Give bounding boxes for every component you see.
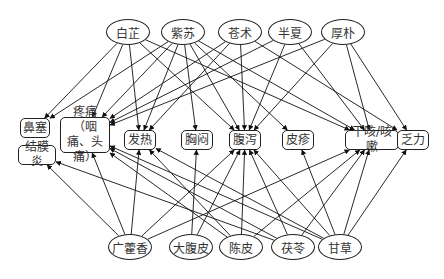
herb-node-zisu: 紫苏 [161, 19, 205, 45]
herb-symptom-diagram: 白芷紫苏苍术半夏厚朴广藿香大腹皮陈皮茯苓甘草鼻塞结膜炎疼痛（咽痛、头痛）发热胸闷… [0, 0, 444, 279]
edge-arrow [110, 153, 227, 237]
edge-arrow [110, 40, 273, 122]
edge-arrow [346, 45, 369, 130]
edge-arrow [92, 153, 125, 234]
herb-node-fuling: 茯苓 [271, 234, 315, 260]
symptom-node-jiemoyan: 结膜炎 [18, 145, 56, 165]
edge-arrow [344, 150, 369, 234]
edge-arrow [47, 165, 119, 236]
edge-arrow [102, 43, 172, 117]
symptom-node-fuxie: 腹泻 [229, 130, 261, 150]
edge-arrow [241, 45, 245, 130]
symptom-node-xiongmen: 胸闷 [181, 130, 213, 150]
symptom-node-bisai: 鼻塞 [20, 118, 50, 138]
edge-arrow [190, 44, 239, 130]
edge-arrow [129, 45, 138, 130]
herb-node-chenpi: 陈皮 [219, 234, 263, 260]
symptom-node-tengtong: 疼痛（咽痛、头痛） [60, 117, 110, 153]
herb-node-baizhi: 白芷 [106, 19, 150, 45]
edge-arrow [192, 150, 197, 234]
edge-arrow [351, 44, 407, 130]
edge-arrow [185, 45, 196, 130]
herb-node-guanghuoxiang: 广藿香 [108, 234, 152, 260]
symptom-node-gankesou: 干咳/咳嗽 [345, 130, 399, 150]
herb-node-houpo: 厚朴 [321, 19, 365, 45]
edge-arrow [142, 150, 234, 236]
edge-arrow [241, 150, 244, 234]
edge-arrow [302, 150, 335, 234]
symptom-node-pizhen: 皮疹 [282, 130, 314, 150]
edge-arrow [140, 43, 234, 130]
symptom-node-fali: 乏力 [397, 130, 429, 150]
edge-arrow [131, 150, 139, 234]
edge-arrow [197, 150, 240, 235]
edge-arrow [348, 150, 406, 235]
herb-node-cangzhu: 苍术 [218, 19, 262, 45]
symptom-node-fare: 发热 [124, 130, 156, 150]
edge-arrow [110, 42, 225, 119]
herb-node-dafupi: 大腹皮 [169, 234, 213, 260]
edge-arrow [56, 162, 274, 240]
edge-arrow [302, 150, 365, 235]
herb-node-gancao: 甘草 [318, 234, 362, 260]
herb-node-banxia: 半夏 [268, 19, 312, 45]
